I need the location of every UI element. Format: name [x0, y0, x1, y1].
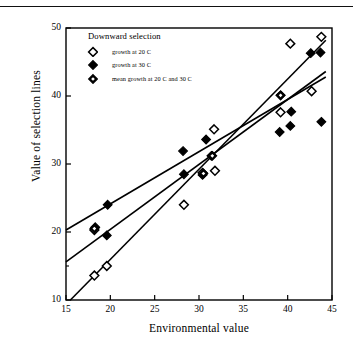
data-point-series-1 — [202, 135, 211, 144]
data-point-series-0 — [286, 39, 295, 48]
y-tick-label: 10 — [39, 294, 61, 304]
legend-label-mean-growth: mean growth at 20 C and 30 C — [112, 75, 192, 82]
data-point-series-1 — [275, 128, 284, 137]
data-point-series-1 — [287, 107, 296, 116]
data-point-series-0 — [210, 125, 219, 134]
legend-label-growth-30c: growth at 30 C — [112, 61, 151, 68]
legend-marker-open-diamond — [86, 45, 98, 57]
legend-swatch — [89, 61, 98, 70]
data-point-series-0 — [317, 32, 326, 41]
x-axis-title: Environmental value — [66, 322, 332, 334]
data-point-series-0 — [102, 262, 111, 271]
data-point-series-1 — [286, 122, 295, 131]
data-point-series-0 — [211, 166, 220, 175]
legend-marker-filled-diamond — [86, 58, 98, 70]
x-tick-label: 30 — [187, 304, 211, 314]
y-tick-label: 30 — [39, 158, 61, 168]
data-point-series-0 — [276, 108, 285, 117]
x-tick-label: 15 — [54, 304, 78, 314]
legend-marker-half-filled-diamond — [86, 72, 98, 84]
data-point-series-1 — [317, 117, 326, 126]
figure-container: Value of selection lines Environmental v… — [0, 0, 353, 345]
data-point-series-1 — [306, 49, 315, 58]
legend-swatch — [89, 48, 98, 57]
x-tick-label: 45 — [320, 304, 344, 314]
y-tick-label: 40 — [39, 90, 61, 100]
y-tick-label: 50 — [39, 22, 61, 32]
x-tick-label: 40 — [276, 304, 300, 314]
y-tick-label: 20 — [39, 226, 61, 236]
data-point-series-1 — [102, 231, 111, 240]
x-tick-label: 25 — [143, 304, 167, 314]
x-tick-label: 20 — [98, 304, 122, 314]
x-tick-label: 35 — [231, 304, 255, 314]
data-point-series-0 — [307, 87, 316, 96]
legend-label-growth-20c: growth at 20 C — [112, 48, 151, 55]
data-point-series-0 — [180, 200, 189, 209]
data-point-series-1 — [179, 147, 188, 156]
regression-line-0 — [70, 40, 325, 300]
y-axis-title: Value of selection lines — [30, 26, 42, 226]
legend-title: Downward selection — [88, 31, 161, 41]
